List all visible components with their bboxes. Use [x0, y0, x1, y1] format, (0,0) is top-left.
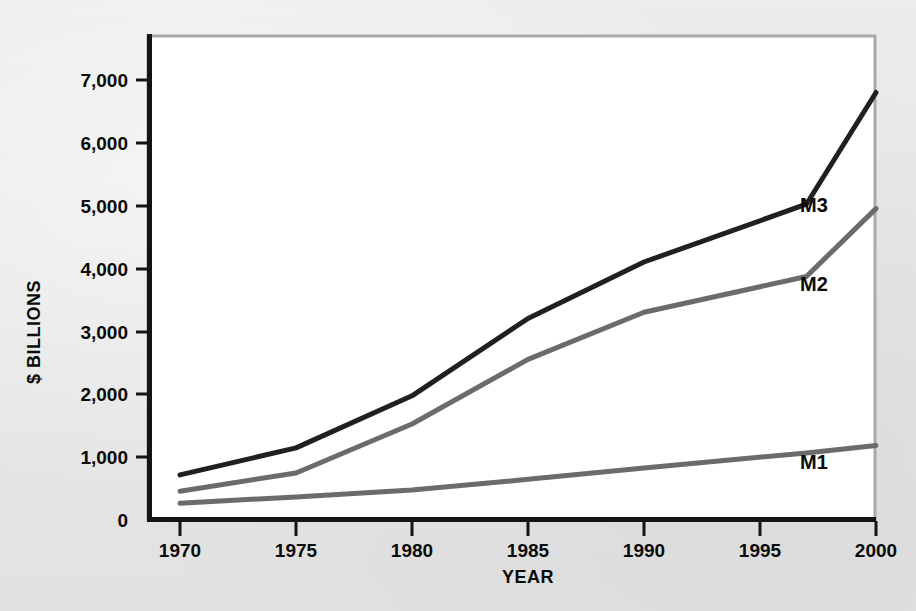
y-axis-title: $ BILLIONS	[24, 280, 44, 384]
x-tick-label: 1970	[159, 540, 201, 561]
y-tick-label: 2,000	[80, 384, 128, 405]
y-tick-label: 1,000	[80, 447, 128, 468]
x-tick-label: 1980	[391, 540, 433, 561]
x-tick-label: 1990	[623, 540, 665, 561]
x-axis-title: YEAR	[502, 567, 554, 587]
series-label-m1: M1	[800, 451, 828, 473]
x-tick-label: 2000	[855, 540, 897, 561]
x-axis-ticks	[180, 521, 876, 536]
y-tick-label-zero: 0	[117, 510, 128, 531]
x-tick-label: 1985	[507, 540, 550, 561]
line-chart: 7,000 6,000 5,000 4,000 3,000 2,000 1,00…	[0, 0, 916, 611]
y-tick-label: 3,000	[80, 322, 128, 343]
plot-area	[148, 36, 875, 520]
y-tick-label: 6,000	[80, 133, 128, 154]
y-tick-label: 4,000	[80, 259, 128, 280]
y-axis-tick-labels: 7,000 6,000 5,000 4,000 3,000 2,000 1,00…	[80, 70, 128, 531]
x-tick-label: 1995	[739, 540, 782, 561]
series-label-m2: M2	[800, 273, 828, 295]
y-tick-label: 7,000	[80, 70, 128, 91]
chart-svg: 7,000 6,000 5,000 4,000 3,000 2,000 1,00…	[0, 0, 916, 611]
y-tick-label: 5,000	[80, 196, 128, 217]
x-axis-tick-labels: 1970 1975 1980 1985 1990 1995 2000	[159, 540, 897, 561]
series-label-m3: M3	[800, 194, 828, 216]
x-tick-label: 1975	[275, 540, 318, 561]
